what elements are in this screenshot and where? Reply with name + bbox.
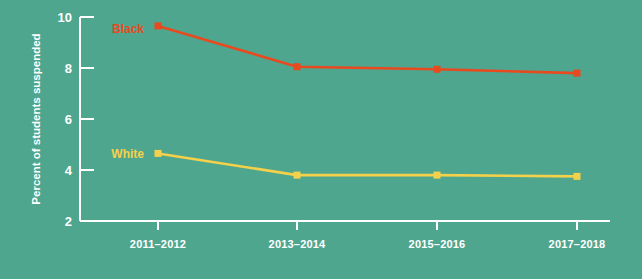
x-tick-label: 2013–2014 [269, 238, 327, 250]
series-line-black [158, 26, 577, 73]
data-point-white-3 [574, 173, 581, 180]
series-label-white: White [111, 147, 144, 161]
y-tick-label: 4 [65, 163, 73, 178]
series-line-white [158, 153, 577, 176]
y-axis-title: Percent of students suspended [30, 33, 42, 204]
data-point-black-2 [434, 66, 441, 73]
x-tick-label: 2017–2018 [549, 238, 606, 250]
chart-container: 246810 2011–20122013–20142015–20162017–2… [0, 0, 642, 279]
y-tick-label: 10 [58, 10, 72, 25]
series-label-black: Black [112, 22, 144, 36]
x-tick-label: 2011–2012 [130, 238, 186, 250]
y-axis: 246810 [58, 10, 94, 229]
x-tick-label: 2015–2016 [409, 238, 466, 250]
x-axis: 2011–20122013–20142015–20162017–2018 [80, 221, 610, 250]
y-tick-label: 6 [65, 112, 72, 127]
data-point-white-1 [294, 172, 301, 179]
series-layer [155, 22, 581, 179]
y-tick-label: 2 [65, 214, 72, 229]
data-point-black-1 [294, 63, 301, 70]
y-tick-group: 246810 [58, 10, 94, 229]
data-point-black-3 [574, 70, 581, 77]
data-point-white-0 [155, 150, 162, 157]
series-label-layer: BlackWhite [111, 22, 144, 161]
data-point-white-2 [434, 172, 441, 179]
data-point-black-0 [155, 22, 162, 29]
line-chart: 246810 2011–20122013–20142015–20162017–2… [0, 0, 642, 279]
x-tick-group: 2011–20122013–20142015–20162017–2018 [130, 221, 606, 250]
y-tick-label: 8 [65, 61, 72, 76]
